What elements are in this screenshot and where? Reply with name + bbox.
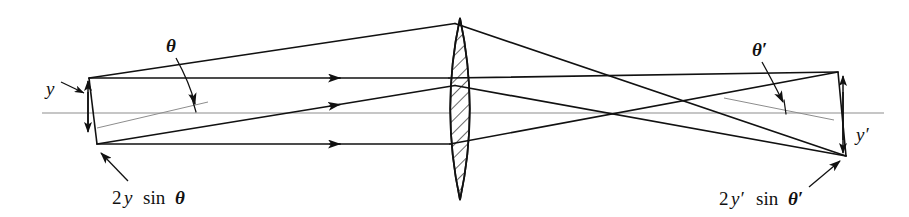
theta-prime-label: θ′ xyxy=(752,39,767,60)
object-invariant-angle: θ xyxy=(175,187,185,208)
angle-reference-line-image xyxy=(724,98,834,120)
image-side-rays xyxy=(449,24,846,157)
ray-lens-uppermid-to-image-bottom xyxy=(455,86,846,157)
y-prime-label: y′ xyxy=(854,124,869,145)
optics-diagram-canvas: θ θ′ y y′ 2 y sin θ 2 y′ sin θ′ xyxy=(0,0,909,217)
lens-hatching xyxy=(436,14,486,206)
image-invariant-angle: θ′ xyxy=(788,188,803,209)
object-plane-tilted-edge xyxy=(89,78,97,144)
image-invariant-number: 2 xyxy=(719,188,729,209)
object-side-rays xyxy=(89,24,455,145)
image-invariant-label: 2 y′ sin θ′ xyxy=(719,188,803,209)
image-dimension-leader-arrow xyxy=(809,161,840,187)
theta-label: θ xyxy=(166,35,176,56)
angle-reference-line-object xyxy=(97,102,208,128)
ray-lens-top-to-image-bottom xyxy=(455,24,846,157)
object-invariant-function: sin xyxy=(143,187,166,208)
image-invariant-function: sin xyxy=(756,188,779,209)
converging-lens xyxy=(436,14,486,206)
y-label: y xyxy=(44,78,55,99)
ray-object-top-upper xyxy=(89,24,455,79)
ray-lens-mid-to-image-top xyxy=(449,72,838,78)
ray-object-bottom-tilted-arrow xyxy=(97,105,340,145)
object-invariant-label: 2 y sin θ xyxy=(112,187,185,208)
image-invariant-variable: y′ xyxy=(729,188,744,209)
angle-tick-image xyxy=(784,100,786,114)
image-plane-tilted-edge xyxy=(838,72,846,156)
object-invariant-variable: y xyxy=(122,187,133,208)
y-leader-arrow xyxy=(61,82,84,93)
object-invariant-number: 2 xyxy=(112,187,122,208)
ray-object-bottom-tilted xyxy=(330,86,455,107)
optics-figure: θ θ′ y y′ 2 y sin θ 2 y′ sin θ′ xyxy=(0,0,909,217)
object-dimension-leader-arrow xyxy=(101,153,128,181)
